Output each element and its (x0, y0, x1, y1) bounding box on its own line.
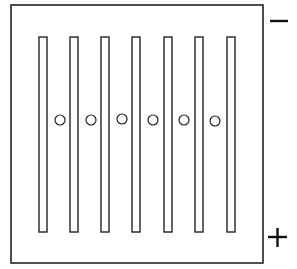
positive-terminal (268, 228, 287, 247)
gel-lane-5 (164, 37, 172, 232)
sample-well-3 (117, 114, 127, 124)
gel-outer-box (11, 5, 263, 263)
gel-lanes (39, 37, 235, 232)
sample-well-2 (86, 115, 96, 125)
sample-well-4 (148, 115, 158, 125)
sample-well-1 (55, 115, 65, 125)
gel-lane-3 (101, 37, 109, 232)
sample-well-6 (210, 116, 220, 126)
gel-lane-4 (132, 37, 140, 232)
gel-lane-7 (227, 37, 235, 232)
gel-lane-6 (195, 37, 203, 232)
sample-well-5 (179, 115, 189, 125)
electrophoresis-gel-diagram (0, 0, 297, 269)
gel-lane-1 (39, 37, 47, 232)
gel-lane-2 (70, 37, 78, 232)
